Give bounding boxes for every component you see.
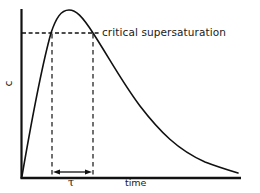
tau-double-arrow: [53, 170, 92, 175]
y-axis-label: c: [3, 80, 14, 86]
tau-label: τ: [68, 177, 74, 188]
critical-supersaturation-label: critical supersaturation: [102, 27, 226, 38]
supersaturation-diagram: critical supersaturation c time τ: [0, 0, 260, 193]
x-axis-label: time: [125, 178, 146, 188]
